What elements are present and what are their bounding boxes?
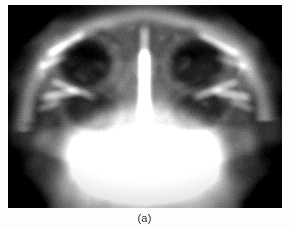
figure-root: (a) <box>0 0 289 228</box>
figure-caption: (a) <box>0 208 289 228</box>
radiograph-canvas <box>8 5 282 208</box>
radiograph-image <box>8 5 282 208</box>
figure-caption-label: (a) <box>137 212 151 224</box>
